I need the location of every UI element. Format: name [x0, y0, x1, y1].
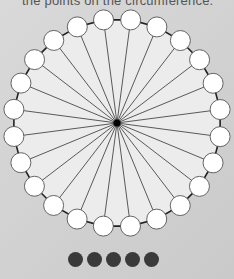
node-circle [203, 73, 223, 93]
node-circle [44, 30, 64, 50]
node-circle [203, 153, 223, 173]
pager-dot[interactable] [68, 252, 83, 267]
node-circle [67, 209, 87, 229]
node-circle [44, 195, 64, 215]
pager-dot[interactable] [144, 252, 159, 267]
node-circle [210, 100, 230, 120]
node-circle [121, 10, 141, 30]
node-circle [147, 209, 167, 229]
node-circle [93, 216, 113, 236]
node-circle [170, 31, 190, 51]
node-circle [120, 216, 140, 236]
node-circle [190, 50, 210, 70]
star-graph-diagram [0, 0, 234, 279]
node-circle [4, 126, 24, 146]
node-circle [11, 153, 31, 173]
node-circle [94, 10, 114, 30]
node-circle [189, 176, 209, 196]
node-circle [170, 196, 190, 216]
node-circle [67, 17, 87, 37]
node-circle [11, 73, 31, 93]
node-circle [25, 50, 45, 70]
node-circle [4, 99, 24, 119]
pager-dot[interactable] [106, 252, 121, 267]
node-circle [24, 176, 44, 196]
center-hub [114, 120, 121, 127]
pagination-dots [68, 252, 159, 267]
pager-dot[interactable] [87, 252, 102, 267]
node-circle [147, 17, 167, 37]
pager-dot[interactable] [125, 252, 140, 267]
node-circle [210, 127, 230, 147]
